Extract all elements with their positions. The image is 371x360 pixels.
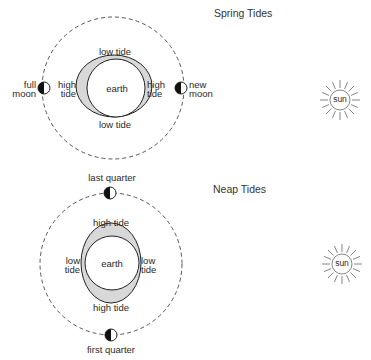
- spring-bottom-tide-label: low tide: [93, 120, 137, 129]
- spring-earth-label: earth: [100, 84, 134, 93]
- spring-tides-title: Spring Tides: [214, 9, 272, 18]
- full-moon-line2: moon: [8, 89, 36, 98]
- full-moon-icon: [38, 82, 50, 94]
- spring-right-tide-label: high tide: [147, 80, 165, 98]
- spring-right-tide-line2: tide: [147, 89, 165, 98]
- neap-bottom-tide-label: high tide: [88, 303, 134, 312]
- neap-left-tide-line2: tide: [56, 265, 80, 274]
- last-quarter-label: last quarter: [82, 173, 142, 182]
- new-moon-line2: moon: [189, 89, 213, 98]
- neap-top-tide-label: high tide: [88, 218, 134, 227]
- first-quarter-label: first quarter: [79, 345, 143, 354]
- neap-earth-label: earth: [95, 259, 129, 268]
- neap-right-tide-label: low tide: [141, 256, 156, 274]
- spring-top-tide-label: low tide: [93, 47, 137, 56]
- full-moon-label: full moon: [8, 80, 36, 98]
- spring-sun-label: sun: [328, 95, 352, 104]
- spring-left-tide-line2: tide: [52, 89, 76, 98]
- first-quarter-moon-icon: [105, 329, 117, 341]
- neap-tides-group: [40, 187, 362, 341]
- new-moon-icon: [175, 82, 187, 94]
- last-quarter-moon-icon: [104, 187, 116, 199]
- new-moon-label: new moon: [189, 80, 213, 98]
- neap-left-tide-label: low tide: [56, 256, 80, 274]
- neap-right-tide-line2: tide: [141, 265, 156, 274]
- tides-diagram: [0, 0, 371, 360]
- neap-tides-title: Neap Tides: [213, 185, 266, 194]
- neap-sun-label: sun: [330, 259, 354, 268]
- spring-left-tide-label: high tide: [52, 80, 76, 98]
